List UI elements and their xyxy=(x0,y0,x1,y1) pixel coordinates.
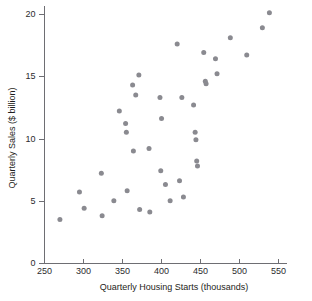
axes-group xyxy=(44,6,287,264)
data-point xyxy=(168,198,173,203)
data-point xyxy=(204,81,209,86)
x-tick-label: 500 xyxy=(232,266,247,276)
data-points-group xyxy=(57,10,271,222)
y-axis-label: Quarterly Sales ($ billion) xyxy=(7,87,17,188)
data-point xyxy=(213,56,218,61)
x-tick-label: 400 xyxy=(154,266,169,276)
data-point xyxy=(267,10,272,15)
scatter-plot-canvas: 250300350400450500550 05101520 Quarterly… xyxy=(0,0,312,301)
data-point xyxy=(111,198,116,203)
data-point xyxy=(131,148,136,153)
data-point xyxy=(191,102,196,107)
data-point xyxy=(77,190,82,195)
data-point xyxy=(123,121,128,126)
x-tick-label: 300 xyxy=(76,266,91,276)
data-point xyxy=(57,217,62,222)
data-point xyxy=(82,206,87,211)
y-tick-label: 0 xyxy=(30,258,35,268)
data-point xyxy=(195,163,200,168)
data-point xyxy=(163,182,168,187)
data-point xyxy=(179,95,184,100)
x-axis-ticks: 250300350400450500550 xyxy=(37,259,286,277)
data-point xyxy=(130,82,135,87)
data-point xyxy=(228,35,233,40)
x-axis-label: Quarterly Housing Starts (thousands) xyxy=(100,282,249,292)
data-point xyxy=(244,53,249,58)
data-point xyxy=(175,41,180,46)
data-point xyxy=(159,116,164,121)
data-point xyxy=(158,168,163,173)
data-point xyxy=(147,209,152,214)
y-axis-ticks: 05101520 xyxy=(25,9,44,268)
data-point xyxy=(215,71,220,76)
y-tick-label: 5 xyxy=(30,196,35,206)
x-tick-label: 450 xyxy=(193,266,208,276)
data-point xyxy=(193,137,198,142)
x-tick-label: 250 xyxy=(37,266,52,276)
y-tick-label: 10 xyxy=(25,134,35,144)
data-point xyxy=(157,95,162,100)
data-point xyxy=(124,130,129,135)
x-tick-label: 350 xyxy=(115,266,130,276)
y-tick-label: 20 xyxy=(25,9,35,19)
data-point xyxy=(193,130,198,135)
data-point xyxy=(136,73,141,78)
data-point xyxy=(260,25,265,30)
scatter-chart-figure: 250300350400450500550 05101520 Quarterly… xyxy=(0,0,312,301)
data-point xyxy=(181,195,186,200)
data-point xyxy=(125,188,130,193)
x-tick-label: 550 xyxy=(271,266,286,276)
data-point xyxy=(177,178,182,183)
data-point xyxy=(201,50,206,55)
y-tick-label: 15 xyxy=(25,71,35,81)
data-point xyxy=(194,158,199,163)
data-point xyxy=(137,207,142,212)
data-point xyxy=(117,109,122,114)
data-point xyxy=(100,213,105,218)
data-point xyxy=(147,146,152,151)
data-point xyxy=(133,92,138,97)
data-point xyxy=(99,171,104,176)
